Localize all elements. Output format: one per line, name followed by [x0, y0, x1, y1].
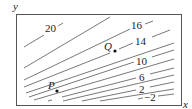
contour-label-6: 6: [139, 71, 145, 83]
contour-label-16: 16: [131, 19, 143, 31]
contour-label-10: 10: [136, 55, 148, 67]
x-axis-label: x: [182, 98, 188, 109]
contour-10-b: [152, 50, 174, 57]
contour-4: [63, 75, 174, 101]
point-q-label: Q: [104, 40, 112, 52]
contour-label-20: 20: [45, 22, 57, 34]
contour-6-c: [150, 68, 174, 74]
contour-16-b: [145, 21, 153, 24]
contour-map: 20 16 14 10 6 2 −2 Q P y x: [0, 0, 192, 109]
contour-14-c: [152, 30, 170, 37]
contour-18: [24, 17, 110, 68]
point-p-marker: [55, 89, 58, 92]
contour-20-b: [58, 23, 63, 26]
point-p-label: P: [47, 79, 55, 91]
contour-6-a: [48, 100, 52, 101]
contour-neg2-a: [138, 98, 143, 99]
contour-2-b: [150, 82, 174, 87]
contour-label-neg2: −2: [144, 91, 156, 103]
contour-label-14: 14: [135, 35, 147, 47]
point-q-marker: [113, 49, 116, 52]
contour-neg2-b: [158, 94, 174, 96]
y-axis-label: y: [12, 0, 18, 12]
contour-20-a: [24, 35, 44, 47]
contour-14-b: [119, 43, 133, 49]
